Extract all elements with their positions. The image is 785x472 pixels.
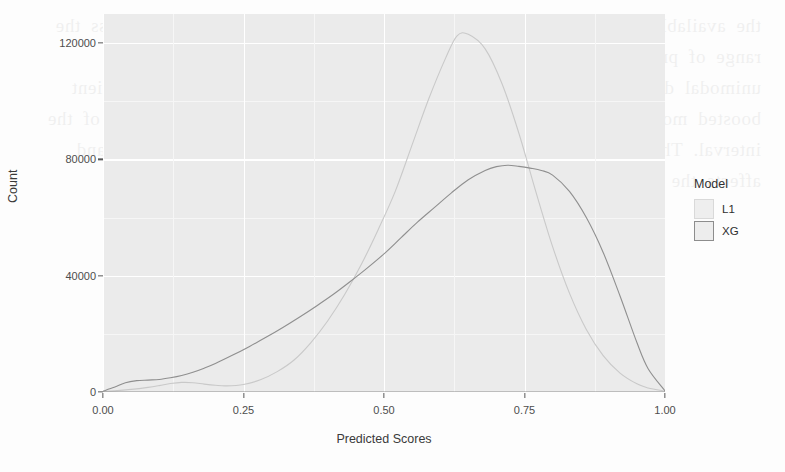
- legend-title: Model: [694, 177, 780, 191]
- y-tick-label: 80000: [65, 153, 96, 165]
- legend-key-l1-icon: [694, 199, 714, 219]
- y-tick-mark: [98, 159, 103, 160]
- legend-key-xg-icon: [694, 221, 714, 241]
- y-tick-label: 40000: [65, 270, 96, 282]
- x-tick-mark: [383, 393, 384, 398]
- x-tick-label: 0.50: [373, 404, 394, 416]
- y-tick-mark: [98, 42, 103, 43]
- x-tick-label: 0.00: [92, 404, 113, 416]
- legend-item-xg[interactable]: XG: [694, 220, 780, 242]
- y-axis-title: Count: [6, 170, 20, 203]
- legend-item-l1[interactable]: L1: [694, 198, 780, 220]
- x-tick-mark: [524, 393, 525, 398]
- x-axis-title: Predicted Scores: [103, 432, 665, 446]
- x-tick-mark: [243, 393, 244, 398]
- chart-screenshot: the available scores and between the dis…: [0, 0, 785, 472]
- x-tick-mark: [102, 393, 103, 398]
- plot-panel: [103, 14, 665, 392]
- series-line-xg: [103, 165, 665, 391]
- x-tick-label: 0.75: [514, 404, 535, 416]
- legend-label-l1: L1: [722, 203, 735, 215]
- x-tick-label: 1.00: [654, 404, 675, 416]
- x-tick-label: 0.25: [233, 404, 254, 416]
- y-tick-label: 120000: [59, 37, 96, 49]
- y-tick-mark: [98, 275, 103, 276]
- series-line-l1: [103, 33, 665, 392]
- density-curves: [103, 14, 665, 392]
- x-tick-mark: [664, 393, 665, 398]
- legend: Model L1 XG: [694, 177, 780, 242]
- y-tick-label: 0: [90, 386, 96, 398]
- legend-label-xg: XG: [722, 225, 739, 237]
